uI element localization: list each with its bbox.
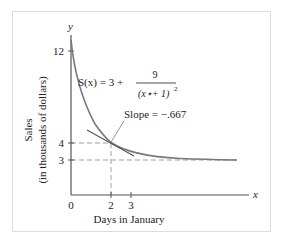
function-label-lhs: S(x) = 3 + xyxy=(78,76,123,89)
y-tick-label-3: 3 xyxy=(59,154,65,166)
x-tick-label-3: 3 xyxy=(128,199,134,211)
function-label-exponent: 2 xyxy=(174,85,178,93)
y-axis-var: y xyxy=(67,20,73,32)
function-label-denominator: (x⋆+ 1) xyxy=(138,88,170,100)
x-tick-label-2: 2 xyxy=(108,199,114,211)
y-axis-title: Sales xyxy=(22,118,34,141)
curve-s-of-x-main xyxy=(71,40,237,160)
y-tick-label-12: 12 xyxy=(53,45,64,57)
function-label-numerator: 9 xyxy=(153,69,158,80)
x-axis-title: Days in January xyxy=(94,213,165,225)
slope-leader-line xyxy=(111,121,124,142)
slope-label: Slope = −.667 xyxy=(124,108,187,120)
chart-svg: y x 12 4 3 0 2 3 Days in January Sales (… xyxy=(0,0,281,241)
y-axis-subtitle: (in thousands of dollars) xyxy=(36,76,49,184)
y-tick-label-4: 4 xyxy=(59,137,65,149)
x-axis-var: x xyxy=(252,188,258,200)
x-tick-label-0: 0 xyxy=(68,199,74,211)
